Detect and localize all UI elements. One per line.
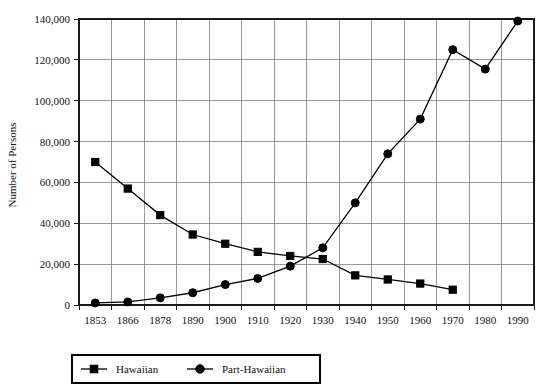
x-tick-label: 1878 (149, 314, 172, 326)
data-point-marker (286, 262, 294, 270)
x-tick-label: 1970 (442, 314, 465, 326)
data-point-marker (156, 294, 164, 302)
data-point-marker (449, 46, 457, 54)
legend-item-part-hawaiian[interactable]: Part-Hawaiian (187, 363, 286, 375)
y-tick-label: 140,000 (34, 13, 70, 25)
data-point-marker (417, 280, 424, 287)
y-tick-label: 120,000 (34, 54, 70, 66)
x-tick-label: 1940 (344, 314, 367, 326)
data-point-marker (91, 299, 99, 307)
data-point-marker (514, 17, 522, 25)
x-tick-label: 1950 (377, 314, 400, 326)
data-point-marker (481, 65, 489, 73)
data-point-marker (319, 255, 326, 262)
data-point-marker (254, 274, 262, 282)
data-point-marker (189, 231, 196, 238)
data-point-marker (351, 199, 359, 207)
legend-label: Part-Hawaiian (222, 363, 286, 375)
legend-label: Hawaiian (116, 363, 159, 375)
chart-legend: HawaiianPart-Hawaiian (72, 355, 320, 383)
y-tick-label: 100,000 (34, 95, 70, 107)
data-point-marker (287, 252, 294, 259)
data-point-marker (221, 281, 229, 289)
data-point-marker (416, 115, 424, 123)
data-point-marker (352, 272, 359, 279)
y-tick-label: 80,000 (40, 136, 71, 148)
x-tick-label: 1980 (474, 314, 497, 326)
data-point-marker (92, 158, 99, 165)
data-point-marker (124, 298, 132, 306)
x-tick-label: 1900 (214, 314, 237, 326)
legend-item-hawaiian[interactable]: Hawaiian (81, 363, 159, 375)
data-point-marker (196, 365, 204, 373)
data-point-marker (449, 286, 456, 293)
y-tick-label: 0 (65, 299, 71, 311)
y-tick-label: 60,000 (40, 176, 71, 188)
data-point-marker (384, 150, 392, 158)
line-chart: 020,00040,00060,00080,000100,000120,0001… (0, 0, 549, 389)
data-point-marker (254, 248, 261, 255)
chart-container: 020,00040,00060,00080,000100,000120,0001… (0, 0, 549, 389)
x-tick-label: 1866 (117, 314, 140, 326)
data-point-marker (319, 244, 327, 252)
x-tick-label: 1920 (279, 314, 302, 326)
data-point-marker (189, 289, 197, 297)
x-tick-label: 1990 (507, 314, 530, 326)
x-tick-label: 1930 (312, 314, 335, 326)
x-tick-label: 1890 (182, 314, 205, 326)
data-point-marker (157, 212, 164, 219)
y-axis-label: Number of Persons (6, 123, 18, 208)
x-tick-label: 1910 (247, 314, 270, 326)
x-tick-label: 1960 (409, 314, 432, 326)
data-point-marker (124, 185, 131, 192)
y-tick-label: 20,000 (40, 258, 71, 270)
y-tick-label: 40,000 (40, 217, 71, 229)
data-point-marker (90, 365, 98, 373)
data-point-marker (222, 240, 229, 247)
data-point-marker (384, 276, 391, 283)
x-tick-label: 1853 (84, 314, 107, 326)
